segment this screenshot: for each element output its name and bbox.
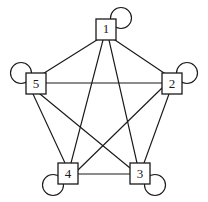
edge-1-4 xyxy=(71,40,103,163)
node-label-3: 3 xyxy=(137,166,144,181)
node-label-5: 5 xyxy=(33,76,40,91)
edge-3-5 xyxy=(40,94,130,168)
edge-1-5 xyxy=(41,38,100,75)
node-5[interactable]: 5 xyxy=(26,73,46,94)
node-4[interactable]: 4 xyxy=(58,163,78,184)
node-label-2: 2 xyxy=(169,76,176,91)
edge-1-3 xyxy=(109,40,137,163)
graph-canvas: 12345 xyxy=(0,0,208,202)
node-2[interactable]: 2 xyxy=(162,73,182,94)
node-3[interactable]: 3 xyxy=(130,163,150,184)
edges-layer xyxy=(33,38,169,174)
graph-diagram: 12345 xyxy=(0,0,208,202)
node-label-1: 1 xyxy=(103,21,110,36)
edge-2-4 xyxy=(78,88,162,170)
edge-1-2 xyxy=(112,38,167,75)
node-label-4: 4 xyxy=(65,166,72,181)
edge-4-5 xyxy=(33,94,65,163)
edge-2-3 xyxy=(144,94,169,163)
node-1[interactable]: 1 xyxy=(96,19,116,40)
